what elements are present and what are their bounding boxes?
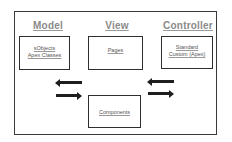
components-items: Components xyxy=(89,109,140,116)
model-right-arrow xyxy=(56,94,78,97)
controller-item-standard: Standard xyxy=(162,44,212,51)
model-title: Model xyxy=(24,20,72,31)
controller-box: Standard Custom (Apex) xyxy=(161,36,213,69)
model-item-apex-classes: Apex Classes xyxy=(20,52,69,59)
controller-items: Standard Custom (Apex) xyxy=(162,44,212,58)
model-item-sobjects: sObjects xyxy=(20,45,69,52)
view-box: Pages xyxy=(88,36,143,70)
controller-left-arrow xyxy=(151,80,174,83)
model-left-arrow xyxy=(59,81,82,84)
controller-title: Controller xyxy=(158,20,218,31)
view-title: View xyxy=(97,20,137,31)
components-label: Components xyxy=(89,109,140,116)
components-box: Components xyxy=(88,95,141,128)
model-items: sObjects Apex Classes xyxy=(20,45,69,59)
view-items: Pages xyxy=(89,47,142,54)
model-box: sObjects Apex Classes xyxy=(19,36,70,70)
view-item-pages: Pages xyxy=(89,47,142,54)
controller-item-custom-apex: Custom (Apex) xyxy=(162,51,212,58)
controller-right-arrow xyxy=(148,92,170,95)
